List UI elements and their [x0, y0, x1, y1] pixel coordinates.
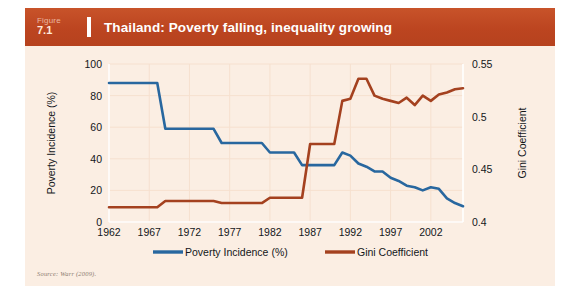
y2-tick-label: 0.45 — [472, 163, 493, 175]
y2-tick-label: 0.5 — [472, 111, 487, 123]
y2-tick-label: 0.4 — [472, 216, 487, 228]
chart-legend: Poverty Incidence (%)Gini Coefficient — [153, 246, 428, 258]
figure-number-block: Figure 7.1 — [25, 17, 87, 37]
y-axis-tick-labels: 020406080100 — [84, 58, 102, 228]
y-tick-label: 80 — [90, 90, 102, 102]
x-tick-label: 1982 — [258, 226, 282, 238]
source-note: Source: Warr (2009). — [37, 270, 96, 277]
legend-label: Poverty Incidence (%) — [185, 246, 288, 258]
y-tick-label: 40 — [90, 153, 102, 165]
x-tick-label: 1967 — [138, 226, 162, 238]
header-divider — [87, 17, 91, 37]
y2-tick-label: 0.55 — [472, 58, 493, 70]
y-tick-label: 100 — [84, 58, 102, 70]
y2-axis-title: Gini Coefficient — [516, 107, 528, 178]
legend-label: Gini Coefficient — [357, 246, 428, 258]
y2-axis-label: Gini Coefficient — [516, 107, 528, 178]
x-axis-tick-labels: 196219671972197719821987199219972002 — [97, 226, 442, 238]
figure-title: Thailand: Poverty falling, inequality gr… — [104, 20, 392, 35]
x-tick-label: 1992 — [339, 226, 363, 238]
x-tick-label: 1987 — [298, 226, 322, 238]
x-tick-label: 2002 — [419, 226, 443, 238]
poverty-gini-line-chart: 020406080100 0.40.450.50.55 196219671972… — [25, 46, 555, 286]
chart-plot-area: 020406080100 0.40.450.50.55 196219671972… — [25, 46, 555, 286]
y-tick-label: 60 — [90, 121, 102, 133]
figure-header-bar: Figure 7.1 Thailand: Poverty falling, in… — [25, 8, 555, 46]
figure-card: Figure 7.1 Thailand: Poverty falling, in… — [25, 8, 555, 286]
x-tick-label: 1972 — [178, 226, 202, 238]
x-tick-label: 1962 — [97, 226, 121, 238]
y-axis-title: Poverty Incidence (%) — [45, 92, 57, 195]
y-axis-label: Poverty Incidence (%) — [45, 92, 57, 195]
x-tick-label: 1977 — [218, 226, 242, 238]
x-tick-label: 1997 — [379, 226, 403, 238]
y-tick-label: 20 — [90, 184, 102, 196]
figure-number-value: 7.1 — [37, 25, 87, 37]
y2-axis-tick-labels: 0.40.450.50.55 — [472, 58, 493, 228]
